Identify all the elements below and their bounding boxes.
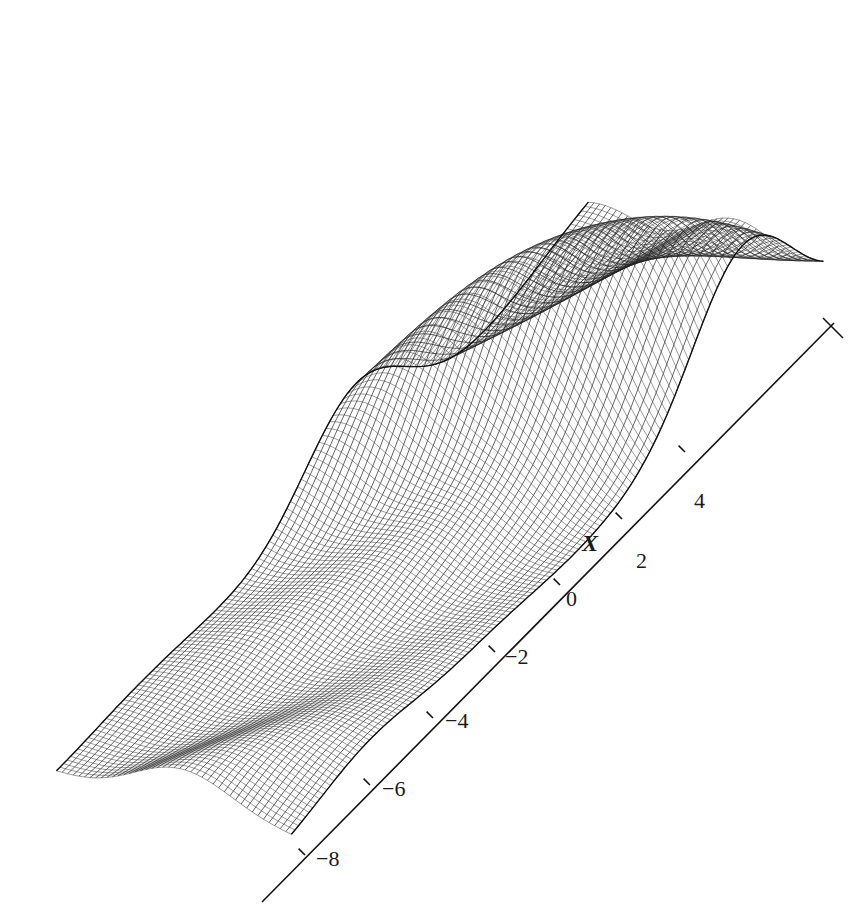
mesh-line-depth [227,599,462,659]
x-tick-label-0: 0 [566,586,577,612]
mesh-line-x [213,218,745,784]
x-axis-title: X [582,530,598,557]
mesh-line-x [286,232,818,832]
x-tick-mark [489,646,495,652]
mesh-line-x [163,226,695,768]
surface-outline [56,202,823,834]
mesh-line-depth [496,217,731,320]
mesh-line-x [191,218,723,772]
x-tick-label-neg6: −6 [382,776,405,802]
mesh-line-depth [60,765,295,831]
x-tick-label-neg4: −4 [445,708,468,734]
mesh-line-depth [447,231,682,378]
x-tick-label-4: 4 [694,488,705,514]
mesh-line-x [140,231,672,771]
mesh-line-depth [56,767,291,834]
mesh-line-depth [64,762,299,826]
mesh-line-x [56,202,588,771]
surface-plot [0,0,862,921]
mesh-line-depth [344,394,579,549]
x-tick-mark [427,712,433,718]
mesh-line-depth [166,657,401,711]
x-tick-label-2: 2 [636,548,647,574]
x-tick-mark [364,779,370,785]
x-tick-mark [679,446,685,452]
x-axis-end-tick [823,318,843,338]
mesh-line-x [280,229,812,829]
surface-edge [56,202,588,771]
mesh-line-x [135,231,667,773]
mesh-line-depth [393,299,628,489]
mesh-line-depth [397,293,632,483]
mesh-line-depth [294,494,529,596]
x-tick-label-neg8: −8 [316,846,339,872]
mesh-line-depth [280,522,515,609]
x-tick-mark [616,513,622,519]
mesh-line-depth [291,501,526,599]
mesh-line-x [264,221,796,819]
x-tick-mark [299,849,305,855]
mesh-line-x [62,203,594,773]
x-tick-mark [554,579,560,585]
mesh-line-x [258,220,790,816]
x-tick-label-neg2: −2 [505,644,528,670]
mesh-line-depth [67,759,302,821]
mesh-line-depth [163,661,398,714]
wireframe-mesh [56,202,823,834]
mesh-line-x [174,222,706,768]
mesh-line-depth [372,338,607,518]
mesh-line-x [196,218,728,774]
mesh-line-x [124,229,656,775]
mesh-line-x [112,224,644,776]
